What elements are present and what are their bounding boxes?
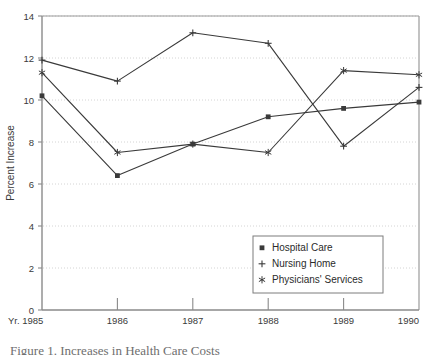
marker-filled-square bbox=[266, 114, 271, 119]
y-tick-label: 2 bbox=[29, 263, 34, 274]
marker-filled-square bbox=[115, 173, 120, 178]
x-tick-label: 1987 bbox=[182, 315, 203, 326]
x-tick-label: 1989 bbox=[333, 315, 354, 326]
x-tick-label: 1988 bbox=[258, 315, 279, 326]
y-tick-label: 10 bbox=[23, 95, 34, 106]
marker-filled-square bbox=[417, 100, 422, 105]
legend-label: Hospital Care bbox=[272, 242, 333, 253]
y-tick-label: 8 bbox=[29, 137, 34, 148]
marker-filled-square bbox=[260, 245, 265, 250]
marker-filled-square bbox=[341, 106, 346, 111]
y-axis-title: Percent Increase bbox=[5, 125, 16, 201]
chart-legend: Hospital CareNursing HomePhysicians' Ser… bbox=[253, 236, 383, 293]
legend-label: Physicians' Services bbox=[272, 274, 363, 285]
y-tick-label: 14 bbox=[23, 11, 34, 22]
x-tick-label: Yr. 1985 bbox=[8, 315, 43, 326]
marker-filled-square bbox=[40, 93, 45, 98]
y-tick-label: 6 bbox=[29, 179, 34, 190]
y-tick-label: 12 bbox=[23, 53, 34, 64]
y-tick-label: 0 bbox=[29, 305, 34, 316]
x-tick-label: 1990 bbox=[398, 315, 419, 326]
figure-caption: Figure 1. Increases in Health Care Costs bbox=[10, 343, 220, 355]
legend-label: Nursing Home bbox=[272, 258, 336, 269]
x-tick-label: 1986 bbox=[107, 315, 128, 326]
y-tick-label: 4 bbox=[29, 221, 34, 232]
y-axis: 02468101214 bbox=[23, 11, 42, 316]
